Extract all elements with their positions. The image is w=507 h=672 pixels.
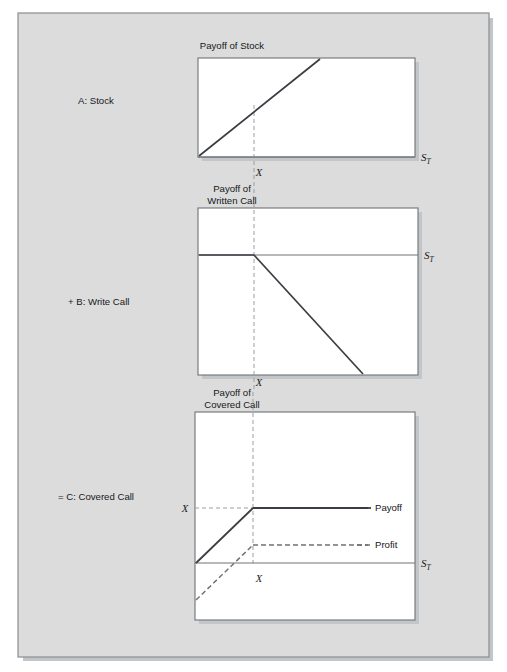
panel-covered-call-title-line1: Payoff of [213, 387, 251, 398]
panel-covered-call-side-label: = C: Covered Call [58, 491, 134, 502]
panel-stock-strike-label: X [255, 167, 263, 178]
panel-written-call-side-label: + B: Write Call [68, 296, 129, 307]
panel-covered-call-box [195, 412, 415, 620]
panel-stock-side-label: A: Stock [78, 95, 114, 106]
panel-written-call-title-line1: Payoff of [213, 183, 251, 194]
payoff-diagram-svg: Payoff of Stock A: Stock X ST Payoff of … [0, 0, 507, 672]
panel-written-call-strike-label: X [255, 377, 263, 388]
panel-stock-title: Payoff of Stock [200, 40, 265, 51]
panel-written-call-box [198, 208, 418, 375]
panel-stock-box [198, 58, 415, 157]
panel-covered-call-strike-label: X [255, 573, 263, 584]
panel-written-call-title-line2: Written Call [207, 195, 256, 206]
panel-covered-call-ystrike-label: X [181, 503, 189, 514]
payoff-diagram-figure: Payoff of Stock A: Stock X ST Payoff of … [0, 0, 507, 672]
legend-label-payoff: Payoff [375, 502, 402, 513]
legend-label-profit: Profit [375, 539, 398, 550]
panel-covered-call-title-line2: Covered Call [204, 399, 259, 410]
